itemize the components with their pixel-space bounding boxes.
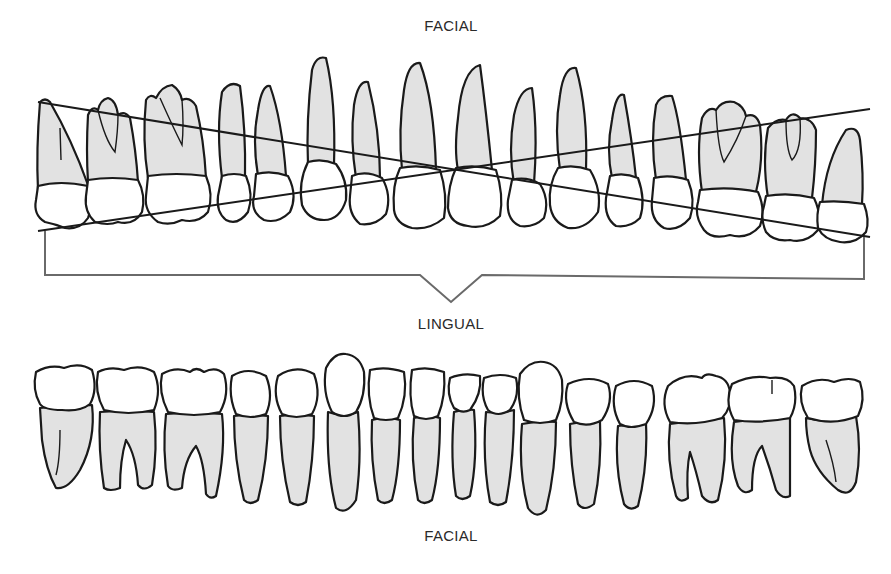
mandibular-arch: [35, 354, 863, 515]
tooth-lower-4: [231, 371, 270, 503]
tooth-upper-6: [301, 58, 346, 221]
tooth-lower-15: [728, 377, 795, 497]
maxillary-arch: [35, 58, 870, 243]
tooth-lower-8: [410, 368, 444, 503]
tooth-lower-13: [614, 381, 654, 509]
tooth-lower-2: [97, 367, 158, 490]
tooth-upper-14: [697, 102, 763, 237]
tooth-upper-5: [253, 86, 293, 221]
tooth-lower-6: [325, 354, 364, 511]
tooth-upper-3: [144, 85, 210, 224]
arch-bracket: [45, 231, 864, 302]
tooth-lower-3: [161, 369, 226, 498]
tooth-lower-7: [369, 368, 405, 503]
tooth-upper-12: [606, 95, 643, 227]
tooth-lower-1: [35, 365, 95, 488]
tooth-lower-10: [483, 375, 517, 505]
tooth-lower-9: [449, 374, 481, 499]
tooth-upper-11: [550, 68, 599, 228]
tooth-lower-11: [519, 362, 563, 515]
tooth-lower-16: [801, 379, 863, 493]
tooth-upper-8: [394, 63, 446, 228]
tooth-upper-16: [817, 129, 867, 243]
tooth-upper-13: [652, 96, 693, 229]
tooth-upper-9: [448, 65, 501, 227]
tooth-lower-12: [566, 379, 610, 508]
tooth-lower-14: [664, 374, 730, 502]
tooth-lower-5: [276, 369, 318, 505]
tooth-upper-1: [35, 100, 91, 229]
